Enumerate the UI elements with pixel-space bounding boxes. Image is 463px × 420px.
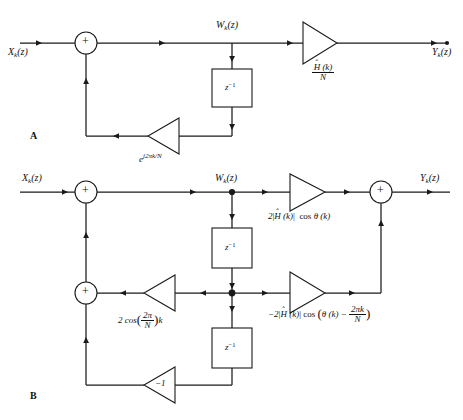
panel-a-input-label: Xk(z) (8, 47, 28, 59)
panel-b-delay-label-1: z−1 (225, 242, 235, 253)
diagram-canvas (0, 0, 463, 420)
panel-a-delay-out-wire (229, 107, 235, 136)
panel-b-letter: B (30, 391, 37, 402)
panel-a-forward-gain-label: ˆH (k) N (303, 63, 343, 83)
panel-b-delay2-in-wire (229, 293, 235, 328)
panel-b-delay1-out-wire (229, 268, 235, 293)
panel-b-feedback-gain-neg-one-label: −1 (155, 379, 166, 388)
panel-b-delay-label-2: z−1 (225, 342, 235, 353)
panel-a-adder-plus: + (82, 35, 89, 48)
panel-a-feedback-rail-left (83, 54, 148, 139)
panel-a-output-wire (337, 40, 449, 46)
panel-a-feedback-gain-label: ej2πk/N (139, 153, 162, 164)
panel-b-adder-top-plus: + (82, 184, 89, 197)
panel-a-letter: A (30, 131, 37, 142)
panel-b-gain-triangle-top (290, 174, 325, 211)
panel-b-input-label: Xk(z) (22, 173, 42, 185)
panel-b-output-wire (392, 189, 450, 195)
panel-a-delay-down-wire (229, 43, 235, 69)
panel-a-output-label: Yk(z) (432, 47, 451, 59)
panel-b-adder-output-plus: + (377, 184, 384, 197)
panel-b-wire-mid-to-cos-gain (175, 290, 232, 296)
panel-b-forward-gain-bottom-label: −2|ˆH (k)| cos (θ (k) − 2πkN) (268, 305, 370, 325)
panel-b-internal-label: Wk(z) (215, 173, 237, 185)
panel-b-gain-triangle-cos (144, 275, 175, 311)
panel-a-internal-label: Wk(z) (216, 20, 238, 32)
panel-a-forward-wire (97, 40, 232, 46)
panel-b-bottom-rail-right (175, 368, 232, 385)
panel-b-forward-wire (97, 189, 232, 195)
panel-b-feedback-gain-cos-label: 2 cos(2πN)k (118, 311, 162, 331)
panel-b-forward-gain-top-label: 2|ˆH (k)| cos θ (k) (268, 212, 330, 221)
panel-b-wire-to-top-gain (232, 189, 290, 195)
panel-b-adder-lower-plus: + (82, 285, 89, 298)
panel-b-wire-bottom-gain-to-adder (325, 203, 384, 296)
panel-b-output-label: Yk(z) (420, 173, 439, 185)
panel-a-wire-to-gain (232, 40, 303, 46)
panel-a-delay-label: z−1 (225, 82, 235, 93)
block-diagram-figure: Xk(z) + Wk(z) z−1 ˆH (k) N ej2πk/N Yk(z)… (0, 0, 463, 420)
panel-a-feedback-gain-triangle (148, 118, 179, 154)
panel-b-wire-cos-to-adder2 (97, 290, 144, 296)
panel-b-wire-mid-to-bottom-gain (232, 290, 290, 296)
panel-a-gain-triangle (303, 22, 337, 64)
panel-a-input-wire (20, 40, 75, 46)
panel-b-input-wire (20, 189, 75, 195)
panel-b-delay1-in-wire (229, 192, 235, 228)
panel-b-wire-gain-to-adder (325, 189, 370, 195)
panel-b-wire-adder2-to-adder1 (83, 203, 89, 282)
